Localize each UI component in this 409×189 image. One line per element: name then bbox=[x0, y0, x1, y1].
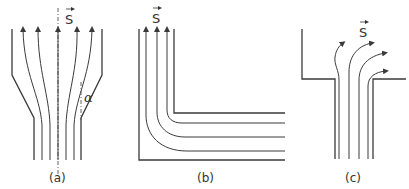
vector-label: S bbox=[152, 11, 160, 26]
nozzle-left-wall bbox=[12, 29, 34, 160]
angle-label: α bbox=[84, 90, 93, 105]
expansion-right-wall bbox=[373, 79, 406, 159]
bend-inner-wall bbox=[174, 29, 285, 113]
panel-a: α S (a) bbox=[12, 8, 102, 185]
panel-c: S (c) bbox=[302, 22, 406, 185]
streamline bbox=[368, 71, 386, 159]
panel-caption: (b) bbox=[197, 171, 214, 185]
streamline bbox=[38, 29, 50, 160]
streamline bbox=[359, 53, 385, 159]
diagram: α S (a) S (b) S (c) bbox=[0, 0, 409, 189]
vector-label: S bbox=[359, 25, 367, 40]
panel-b: S (b) bbox=[139, 8, 285, 185]
panel-caption: (a) bbox=[49, 171, 66, 185]
bend-outer-wall bbox=[139, 29, 285, 160]
streamline bbox=[66, 29, 77, 160]
vector-label: S bbox=[65, 12, 73, 27]
expansion-left-wall bbox=[302, 29, 335, 159]
streamline bbox=[167, 29, 285, 123]
streamline bbox=[157, 29, 285, 137]
streamline bbox=[349, 43, 372, 159]
panel-caption: (c) bbox=[345, 171, 361, 185]
streamline bbox=[335, 43, 343, 159]
